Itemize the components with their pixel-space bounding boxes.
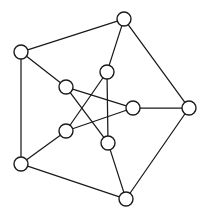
graph-edge-outer-top-to-inner-top (109, 26, 122, 66)
graph-edge-outer-bottom-to-inner-bottom (110, 150, 124, 193)
graph-edge-outer-left-lower-to-inner-lower-left (27, 135, 61, 160)
graph-canvas (0, 0, 209, 220)
graph-node-outer-left-lower[interactable] (14, 157, 28, 171)
graph-edge-outer-bottom-to-outer-left-lower (28, 166, 120, 197)
graph-node-outer-top[interactable] (117, 12, 131, 26)
graph-figure (0, 0, 209, 220)
graph-edge-inner-top-to-inner-lower-left (70, 78, 103, 126)
graph-node-outer-right[interactable] (182, 101, 196, 115)
graph-node-inner-top[interactable] (100, 65, 114, 79)
graph-edge-inner-top-to-inner-bottom (107, 79, 108, 136)
graph-node-inner-bottom[interactable] (101, 136, 115, 150)
edge-layer (21, 21, 185, 197)
graph-edge-outer-right-to-outer-bottom (130, 114, 185, 193)
graph-node-inner-lower-left[interactable] (59, 124, 73, 138)
graph-node-inner-right[interactable] (126, 101, 140, 115)
graph-edge-inner-upper-left-to-inner-right (73, 89, 127, 106)
graph-edge-inner-upper-left-to-inner-bottom (70, 93, 104, 138)
graph-edge-outer-left-upper-to-inner-upper-left (27, 56, 61, 82)
graph-node-outer-left-upper[interactable] (14, 45, 28, 59)
node-layer (14, 12, 196, 206)
graph-node-outer-bottom[interactable] (119, 192, 133, 206)
graph-node-inner-upper-left[interactable] (59, 80, 73, 94)
graph-edge-outer-top-to-outer-right (128, 25, 185, 103)
graph-edge-inner-right-to-inner-lower-left (73, 110, 127, 128)
graph-edge-outer-left-upper-to-outer-top (28, 21, 118, 50)
